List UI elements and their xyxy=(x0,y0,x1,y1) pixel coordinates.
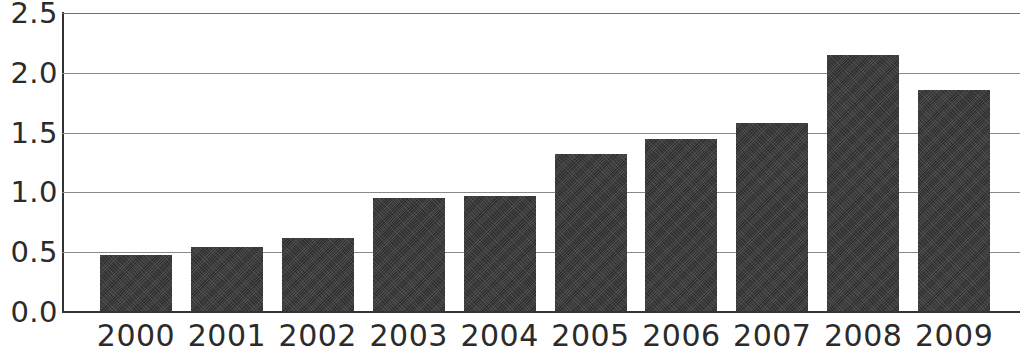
bar xyxy=(555,154,627,312)
bar xyxy=(645,139,717,312)
x-axis-tick-label: 2008 xyxy=(822,316,904,357)
x-axis-tick-labels: 2000200120022003200420052006200720082009 xyxy=(62,316,1020,361)
y-axis-tick-labels: 0.00.51.01.52.02.5 xyxy=(0,0,58,361)
x-axis-tick-label: 2005 xyxy=(550,316,632,357)
bar xyxy=(827,55,899,312)
x-axis-tick-label: 2006 xyxy=(640,316,722,357)
x-axis-line xyxy=(62,311,1020,313)
y-axis-tick-label: 2.5 xyxy=(2,0,58,28)
x-axis-tick-label: 2002 xyxy=(277,316,359,357)
y-axis-tick-label: 2.0 xyxy=(2,58,58,87)
plot-area xyxy=(62,13,1020,312)
x-axis-tick-label: 2007 xyxy=(731,316,813,357)
x-axis-tick-label: 2001 xyxy=(186,316,268,357)
bar-series xyxy=(62,13,1020,312)
y-axis-tick-label: 0.5 xyxy=(2,238,58,267)
x-axis-tick-label: 2003 xyxy=(368,316,450,357)
bar xyxy=(373,198,445,312)
bar xyxy=(464,196,536,312)
bar xyxy=(736,123,808,312)
x-axis-tick-label: 2000 xyxy=(95,316,177,357)
bar xyxy=(918,90,990,312)
x-axis-tick-label: 2009 xyxy=(913,316,995,357)
x-axis-tick-label: 2004 xyxy=(459,316,541,357)
y-axis-tick-label: 1.0 xyxy=(2,178,58,207)
bar-chart: 0.00.51.01.52.02.5 200020012002200320042… xyxy=(0,0,1022,361)
bar xyxy=(100,255,172,312)
y-axis-tick-label: 1.5 xyxy=(2,118,58,147)
y-axis-tick-label: 0.0 xyxy=(2,298,58,327)
bar xyxy=(191,247,263,312)
bar xyxy=(282,238,354,312)
